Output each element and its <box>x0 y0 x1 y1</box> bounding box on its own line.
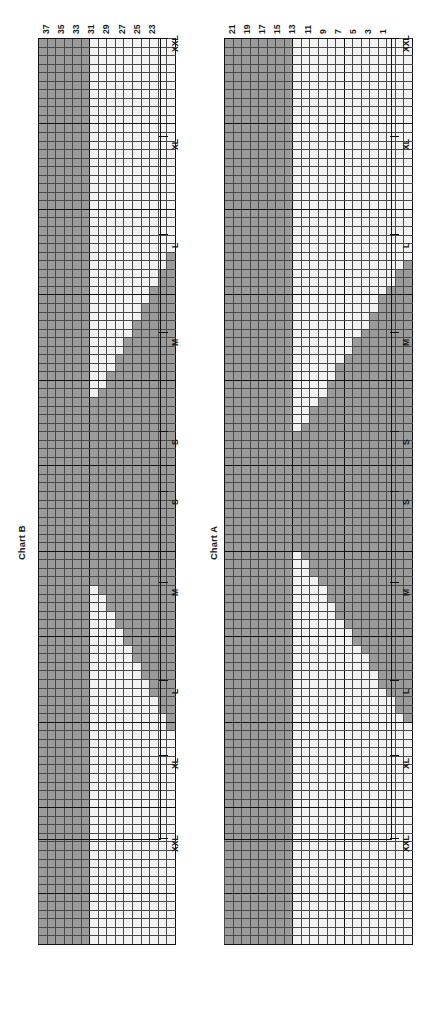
chart-cell <box>64 910 73 919</box>
chart-cell <box>242 372 251 381</box>
chart-grid-column <box>39 286 176 295</box>
chart-cell <box>90 56 99 65</box>
chart-cell <box>259 927 268 936</box>
chart-cell <box>73 244 82 253</box>
chart-cell <box>233 227 242 236</box>
chart-cell <box>404 184 413 193</box>
chart-cell <box>64 688 73 697</box>
chart-cell <box>124 133 133 142</box>
chart-cell <box>327 705 336 714</box>
chart-cell <box>233 124 242 133</box>
chart-cell <box>225 329 234 338</box>
chart-cell <box>259 748 268 757</box>
chart-cell <box>233 47 242 56</box>
chart-cell <box>225 73 234 82</box>
chart-cell <box>233 568 242 577</box>
chart-cell <box>150 919 159 928</box>
chart-grid-column <box>39 799 176 808</box>
chart-cell <box>90 833 99 842</box>
chart-cell <box>124 577 133 586</box>
chart-cell <box>81 415 90 424</box>
chart-cell <box>115 662 124 671</box>
chart-grid-column <box>39 731 176 740</box>
chart-cell <box>158 586 167 595</box>
chart-cell <box>370 808 379 817</box>
chart-cell <box>267 227 276 236</box>
chart-grid-column <box>39 816 176 825</box>
chart-grid-column <box>39 423 176 432</box>
chart-grid-column <box>39 64 176 73</box>
chart-cell <box>250 799 259 808</box>
chart-cell <box>90 705 99 714</box>
chart-cell <box>150 474 159 483</box>
chart-cell <box>284 150 293 159</box>
chart-cell <box>81 372 90 381</box>
chart-cell <box>301 261 310 270</box>
chart-b-title: Chart B <box>16 525 27 560</box>
chart-cell <box>361 201 370 210</box>
chart-cell <box>361 184 370 193</box>
chart-cell <box>336 791 345 800</box>
chart-cell <box>336 927 345 936</box>
chart-cell <box>133 551 142 560</box>
chart-cell <box>90 628 99 637</box>
chart-cell <box>404 372 413 381</box>
chart-cell <box>115 782 124 791</box>
chart-cell <box>327 303 336 312</box>
chart-cell <box>267 261 276 270</box>
chart-cell <box>301 885 310 894</box>
chart-grid-column <box>225 269 413 278</box>
chart-cell <box>361 628 370 637</box>
chart-cell <box>47 56 56 65</box>
chart-cell <box>344 509 353 518</box>
chart-cell <box>276 329 285 338</box>
chart-cell <box>327 218 336 227</box>
chart-cell <box>404 457 413 466</box>
chart-cell <box>107 868 116 877</box>
chart-cell <box>344 64 353 73</box>
chart-cell <box>284 73 293 82</box>
chart-cell <box>284 201 293 210</box>
chart-cell <box>158 372 167 381</box>
chart-cell <box>133 603 142 612</box>
chart-cell <box>259 440 268 449</box>
chart-cell <box>293 269 302 278</box>
chart-cell <box>395 184 404 193</box>
chart-cell <box>81 543 90 552</box>
chart-grid-column <box>39 329 176 338</box>
chart-cell <box>250 261 259 270</box>
chart-cell <box>361 235 370 244</box>
chart-cell <box>133 902 142 911</box>
chart-cell <box>242 389 251 398</box>
chart-cell <box>344 654 353 663</box>
chart-cell <box>353 868 362 877</box>
chart-cell <box>378 645 387 654</box>
chart-cell <box>361 919 370 928</box>
chart-cell <box>64 756 73 765</box>
chart-cell <box>319 483 328 492</box>
chart-cell <box>361 799 370 808</box>
chart-cell <box>81 714 90 723</box>
chart-cell <box>293 329 302 338</box>
chart-cell <box>361 167 370 176</box>
chart-cell <box>276 209 285 218</box>
chart-cell <box>81 645 90 654</box>
chart-cell <box>81 722 90 731</box>
size-label: L <box>401 243 411 248</box>
chart-cell <box>310 551 319 560</box>
chart-cell <box>107 722 116 731</box>
chart-cell <box>293 526 302 535</box>
chart-cell <box>225 859 234 868</box>
chart-cell <box>336 688 345 697</box>
chart-cell <box>301 346 310 355</box>
chart-cell <box>56 543 65 552</box>
chart-cell <box>370 303 379 312</box>
chart-cell <box>81 654 90 663</box>
chart-cell <box>387 158 396 167</box>
chart-grid-column <box>225 295 413 304</box>
chart-cell <box>361 808 370 817</box>
chart-cell <box>387 449 396 458</box>
chart-cell <box>233 321 242 330</box>
chart-cell <box>284 842 293 851</box>
chart-cell <box>276 586 285 595</box>
